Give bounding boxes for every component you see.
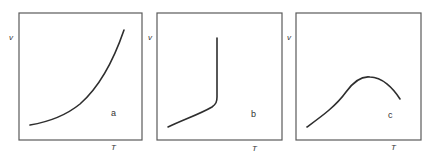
panel-b-letter: b <box>251 109 256 119</box>
panel-c-curve <box>307 77 400 127</box>
panel-a-letter: a <box>111 108 116 118</box>
panel-b-y-label: v <box>148 33 153 42</box>
panel-a: v T a <box>9 13 142 152</box>
panel-c-x-label: T <box>391 143 397 152</box>
panel-c: v T c <box>287 13 421 152</box>
panel-b-curve <box>168 38 217 127</box>
panel-a-x-label: T <box>111 143 117 152</box>
panel-b-frame <box>157 13 282 140</box>
panel-b: v T b <box>148 13 282 153</box>
panel-c-y-label: v <box>287 33 292 42</box>
panel-b-x-label: T <box>252 144 258 153</box>
panel-c-letter: c <box>388 110 393 120</box>
panel-a-y-label: v <box>9 33 14 42</box>
panel-a-curve <box>30 30 124 125</box>
figure-three-panels: v T a v T b v T c <box>0 0 432 156</box>
